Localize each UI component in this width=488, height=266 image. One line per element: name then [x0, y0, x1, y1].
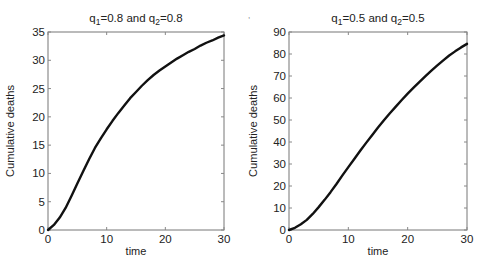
y-tick-label: 90 — [273, 26, 286, 38]
plot-frame — [48, 32, 224, 230]
y-tick-label: 30 — [32, 54, 45, 66]
y-tick-label: 0 — [280, 224, 286, 236]
stray-mark: , — [248, 11, 250, 20]
chart-title: q1=0.8 and q2=0.8 — [89, 12, 182, 27]
x-tick-label: 10 — [100, 233, 113, 245]
y-tick-label: 15 — [32, 139, 45, 151]
x-tick-label: 10 — [342, 233, 355, 245]
y-tick-label: 10 — [273, 202, 286, 214]
y-tick-label: 20 — [32, 111, 45, 123]
chart-title: q1=0.5 and q2=0.5 — [331, 12, 424, 27]
x-tick-label: 20 — [159, 233, 172, 245]
y-tick-label: 80 — [273, 48, 286, 60]
y-tick-label: 50 — [273, 114, 286, 126]
chart-right: 01020300102030405060708090timeCumulative… — [247, 12, 473, 257]
x-axis-label: time — [368, 245, 389, 257]
y-tick-label: 20 — [273, 180, 286, 192]
x-tick-label: 0 — [286, 233, 292, 245]
x-tick-label: 30 — [461, 233, 474, 245]
y-tick-label: 25 — [32, 83, 45, 95]
chart-left: 010203005101520253035timeCumulative deat… — [4, 12, 230, 257]
x-tick-label: 30 — [218, 233, 231, 245]
y-tick-label: 35 — [32, 26, 45, 38]
x-axis-label: time — [126, 245, 147, 257]
y-tick-label: 70 — [273, 70, 286, 82]
y-axis-label: Cumulative deaths — [247, 85, 259, 177]
y-axis-label: Cumulative deaths — [4, 85, 16, 177]
x-tick-label: 20 — [401, 233, 414, 245]
y-tick-label: 10 — [32, 167, 45, 179]
figure: 010203005101520253035timeCumulative deat… — [0, 0, 488, 266]
y-tick-label: 60 — [273, 92, 286, 104]
x-tick-label: 0 — [45, 233, 51, 245]
data-line — [289, 44, 467, 230]
data-line — [48, 35, 224, 230]
y-tick-label: 40 — [273, 136, 286, 148]
y-tick-label: 5 — [39, 196, 45, 208]
y-tick-label: 0 — [39, 224, 45, 236]
y-tick-label: 30 — [273, 158, 286, 170]
